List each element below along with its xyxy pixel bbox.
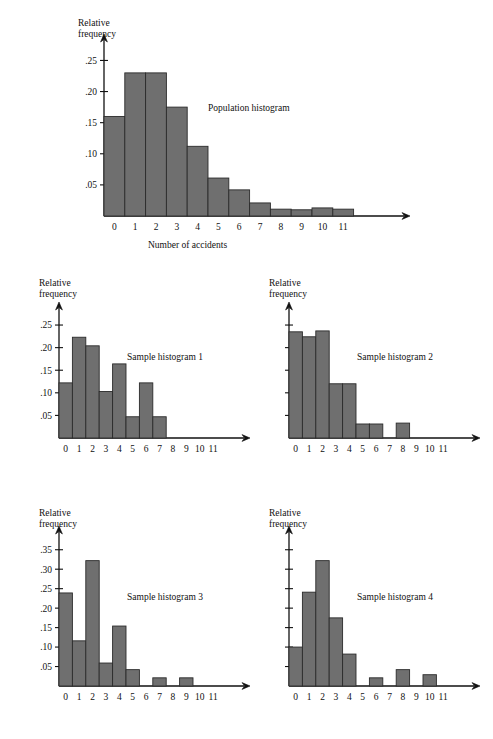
svg-text:0: 0	[63, 444, 68, 454]
svg-text:3: 3	[174, 222, 179, 232]
svg-text:.10: .10	[40, 388, 52, 398]
svg-text:3: 3	[334, 444, 339, 454]
svg-text:4: 4	[117, 444, 122, 454]
svg-text:9: 9	[414, 692, 419, 702]
svg-text:.20: .20	[40, 604, 52, 614]
svg-text:.05: .05	[40, 411, 52, 421]
sample-histogram-4: Relative frequency Sample histogram 4 01…	[263, 508, 478, 726]
svg-text:11: 11	[209, 692, 218, 702]
svg-text:1: 1	[307, 692, 312, 702]
svg-text:5: 5	[130, 692, 135, 702]
population-histogram: Relative frequency Population histogram …	[60, 18, 420, 263]
svg-text:10: 10	[195, 444, 205, 454]
sample-histogram-3: Relative frequency Sample histogram 3 .0…	[33, 508, 248, 726]
svg-text:3: 3	[104, 692, 109, 702]
sample-histogram-2-plot: 01234567891011	[263, 278, 478, 478]
svg-text:2: 2	[320, 444, 325, 454]
svg-text:5: 5	[216, 222, 221, 232]
svg-text:11: 11	[209, 444, 218, 454]
svg-text:11: 11	[339, 222, 348, 232]
chart-caption: Sample histogram 4	[357, 592, 433, 602]
y-axis-title: Relative frequency	[269, 278, 307, 300]
svg-text:5: 5	[360, 692, 365, 702]
population-histogram-plot: .05.10.15.20.2501234567891011	[60, 18, 420, 263]
sample-histogram-1-plot: .05.10.15.20.2501234567891011	[33, 278, 248, 478]
svg-text:.10: .10	[85, 149, 97, 159]
svg-text:.25: .25	[40, 320, 52, 330]
y-axis-title: Relative frequency	[78, 18, 116, 40]
svg-text:1: 1	[77, 692, 82, 702]
svg-text:0: 0	[63, 692, 68, 702]
svg-text:6: 6	[144, 444, 149, 454]
sample-histogram-1: Relative frequency Sample histogram 1 .0…	[33, 278, 248, 478]
svg-text:.35: .35	[40, 545, 52, 555]
svg-text:.25: .25	[40, 584, 52, 594]
svg-text:.30: .30	[40, 565, 52, 575]
svg-text:2: 2	[90, 444, 95, 454]
svg-text:7: 7	[387, 444, 392, 454]
svg-text:2: 2	[320, 692, 325, 702]
chart-caption: Population histogram	[208, 103, 290, 113]
y-axis-title: Relative frequency	[39, 508, 77, 530]
svg-text:10: 10	[195, 692, 205, 702]
svg-text:8: 8	[171, 444, 176, 454]
svg-text:.15: .15	[40, 623, 52, 633]
svg-text:10: 10	[318, 222, 328, 232]
svg-text:6: 6	[374, 692, 379, 702]
y-axis-title: Relative frequency	[269, 508, 307, 530]
svg-text:8: 8	[278, 222, 283, 232]
svg-text:0: 0	[293, 444, 298, 454]
svg-text:.20: .20	[85, 87, 97, 97]
svg-text:5: 5	[130, 444, 135, 454]
sample-histogram-4-plot: 01234567891011	[263, 508, 478, 726]
svg-text:10: 10	[425, 692, 435, 702]
svg-text:.20: .20	[40, 343, 52, 353]
sample-histogram-3-plot: .05.10.15.20.25.30.3501234567891011	[33, 508, 248, 726]
svg-text:4: 4	[347, 444, 352, 454]
svg-text:8: 8	[171, 692, 176, 702]
chart-caption: Sample histogram 2	[357, 352, 433, 362]
svg-text:.05: .05	[85, 180, 97, 190]
svg-text:6: 6	[237, 222, 242, 232]
chart-caption: Sample histogram 3	[127, 592, 203, 602]
svg-text:4: 4	[117, 692, 122, 702]
y-axis-title: Relative frequency	[39, 278, 77, 300]
svg-text:1: 1	[77, 444, 82, 454]
svg-text:.10: .10	[40, 642, 52, 652]
svg-text:4: 4	[195, 222, 200, 232]
svg-text:4: 4	[347, 692, 352, 702]
svg-text:11: 11	[439, 692, 448, 702]
x-axis-title: Number of accidents	[148, 240, 227, 250]
svg-text:6: 6	[374, 444, 379, 454]
svg-text:2: 2	[90, 692, 95, 702]
svg-text:3: 3	[334, 692, 339, 702]
svg-text:9: 9	[414, 444, 419, 454]
chart-caption: Sample histogram 1	[127, 352, 203, 362]
svg-text:7: 7	[258, 222, 263, 232]
svg-text:.15: .15	[40, 366, 52, 376]
svg-text:.25: .25	[85, 56, 97, 66]
svg-text:2: 2	[154, 222, 159, 232]
svg-text:7: 7	[387, 692, 392, 702]
svg-text:.15: .15	[85, 118, 97, 128]
svg-text:8: 8	[401, 692, 406, 702]
svg-text:7: 7	[157, 692, 162, 702]
svg-text:3: 3	[104, 444, 109, 454]
svg-text:9: 9	[184, 692, 189, 702]
svg-text:9: 9	[184, 444, 189, 454]
svg-text:7: 7	[157, 444, 162, 454]
sample-histogram-2: Relative frequency Sample histogram 2 01…	[263, 278, 478, 478]
svg-text:0: 0	[293, 692, 298, 702]
svg-text:5: 5	[360, 444, 365, 454]
svg-text:11: 11	[439, 444, 448, 454]
svg-text:1: 1	[307, 444, 312, 454]
svg-text:0: 0	[112, 222, 117, 232]
svg-text:8: 8	[401, 444, 406, 454]
svg-text:6: 6	[144, 692, 149, 702]
svg-text:10: 10	[425, 444, 435, 454]
svg-text:.05: .05	[40, 662, 52, 672]
svg-text:9: 9	[299, 222, 304, 232]
svg-text:1: 1	[133, 222, 138, 232]
